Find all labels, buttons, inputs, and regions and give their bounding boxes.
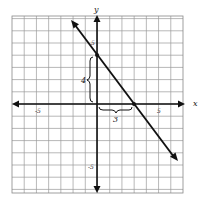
x-axis-label: x bbox=[193, 99, 198, 108]
y-intercept-point bbox=[95, 53, 99, 57]
x-tick-label-neg5: -5 bbox=[35, 107, 41, 114]
run-label: 3 bbox=[113, 115, 118, 124]
y-tick-label-neg5: -5 bbox=[88, 163, 94, 170]
y-tick-label-pos5: 5 bbox=[91, 39, 95, 46]
run-brace bbox=[99, 107, 132, 113]
rise-label: 4 bbox=[80, 76, 86, 85]
x-tick-label-pos5: 5 bbox=[157, 107, 161, 114]
x-axis-left-arrow-icon bbox=[12, 101, 19, 108]
x-intercept-point bbox=[132, 102, 136, 106]
y-axis-label: y bbox=[93, 5, 99, 14]
x-axis-right-arrow-icon bbox=[178, 101, 185, 108]
coordinate-plane: x y -5 5 5 -5 4 3 bbox=[0, 0, 202, 202]
line-arrow-top-icon bbox=[71, 20, 79, 29]
graph-line bbox=[71, 20, 178, 161]
